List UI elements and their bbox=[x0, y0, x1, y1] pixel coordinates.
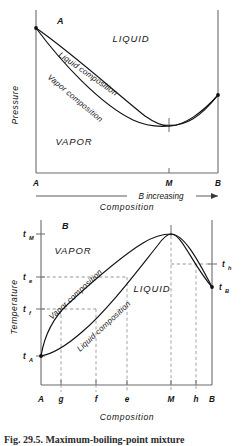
temperature-region-liquid: LIQUID bbox=[133, 283, 170, 294]
temperature-righttick-label-th: t h bbox=[222, 260, 232, 271]
temperature-ytick-label-tm: t M bbox=[23, 230, 34, 241]
svg-text:t: t bbox=[23, 273, 26, 282]
temperature-y-axis-label: Temperature bbox=[9, 279, 19, 334]
pressure-composition-chart: A LIQUID VAPOR Liquid composition Vapor … bbox=[0, 0, 244, 212]
temperature-liquid-curve-label: Liquid composition bbox=[75, 299, 132, 353]
figure-root: A LIQUID VAPOR Liquid composition Vapor … bbox=[0, 0, 244, 446]
temperature-region-vapor: VAPOR bbox=[54, 245, 91, 256]
temperature-xtick-label-b: B bbox=[209, 395, 215, 404]
svg-text:e: e bbox=[29, 278, 32, 284]
temperature-corner-label: B bbox=[62, 221, 69, 231]
pressure-region-liquid: LIQUID bbox=[112, 33, 149, 44]
svg-text:B: B bbox=[225, 288, 229, 294]
point-b-temp bbox=[210, 285, 214, 289]
pressure-x-axis-label: Composition bbox=[100, 202, 154, 212]
svg-text:A: A bbox=[28, 357, 33, 363]
pressure-region-vapor: VAPOR bbox=[55, 136, 92, 147]
temperature-xtick-label-g: g bbox=[57, 395, 63, 404]
svg-text:M: M bbox=[29, 235, 34, 241]
pressure-direction-label: B increasing bbox=[138, 192, 184, 201]
temperature-xtick-label-m: M bbox=[168, 395, 175, 404]
temperature-ytick-label-ta: t A bbox=[23, 352, 33, 363]
figure-caption: Fig. 29.5. Maximum-boiling-point mixture bbox=[0, 432, 244, 446]
temperature-xtick-label-a: A bbox=[37, 395, 44, 404]
temperature-composition-chart: B VAPOR LIQUID Vapor composition Liquid … bbox=[0, 212, 244, 446]
temperature-ytick-label-te: t e bbox=[23, 273, 32, 284]
svg-text:t: t bbox=[23, 230, 26, 239]
temperature-xtick-label-e: e bbox=[125, 395, 130, 404]
temperature-ytick-label-tf: t f bbox=[23, 305, 32, 316]
temperature-vapor-curve-label: Vapor composition bbox=[47, 267, 104, 321]
point-a-temp bbox=[39, 354, 43, 358]
pressure-y-axis-label: Pressure bbox=[10, 85, 20, 124]
point-b-pressure bbox=[216, 93, 220, 97]
direction-arrowhead-icon bbox=[211, 193, 218, 199]
svg-text:t: t bbox=[23, 305, 26, 314]
pressure-corner-label: A bbox=[56, 16, 64, 26]
svg-text:h: h bbox=[228, 265, 232, 271]
svg-text:t: t bbox=[222, 260, 225, 269]
temperature-chart-svg: B VAPOR LIQUID Vapor composition Liquid … bbox=[0, 212, 244, 446]
temperature-xtick-label-f: f bbox=[95, 395, 99, 404]
pressure-xtick-label-a: A bbox=[32, 179, 39, 188]
temperature-xtick-label-h: h bbox=[193, 395, 198, 404]
temperature-x-axis-label: Composition bbox=[100, 412, 154, 422]
pressure-xtick-label-m: M bbox=[166, 179, 173, 188]
svg-text:t: t bbox=[23, 352, 26, 361]
svg-text:t: t bbox=[219, 283, 222, 292]
svg-text:f: f bbox=[29, 310, 32, 316]
point-a-pressure bbox=[34, 26, 38, 30]
pressure-xtick-label-b: B bbox=[215, 179, 221, 188]
pressure-chart-svg: A LIQUID VAPOR Liquid composition Vapor … bbox=[0, 0, 244, 212]
temperature-righttick-label-tb: t B bbox=[219, 283, 229, 294]
